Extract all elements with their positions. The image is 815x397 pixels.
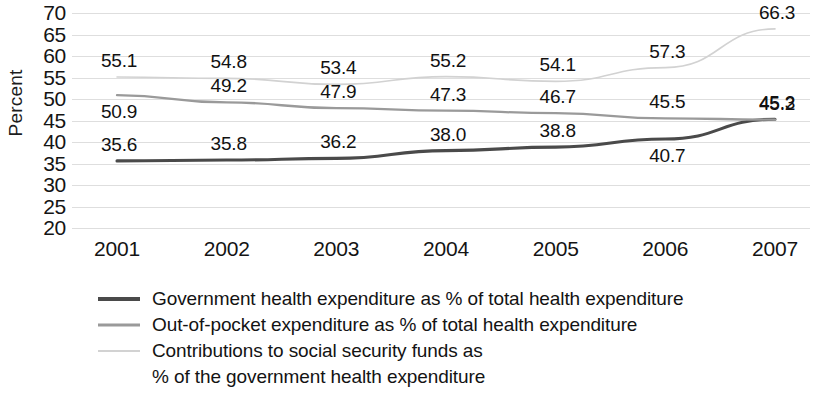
data-label-social-security-contributions-2007: 66.3 xyxy=(759,3,795,22)
data-label-government-health-expenditure-2003: 36.2 xyxy=(320,132,356,151)
x-axis-tick-label: 2002 xyxy=(204,236,250,262)
data-label-government-health-expenditure-2006: 40.7 xyxy=(649,146,685,165)
y-axis-tick-label: 70 xyxy=(8,2,66,23)
data-label-out-of-pocket-expenditure-2003: 47.9 xyxy=(320,82,356,101)
x-axis-tick-label: 2003 xyxy=(313,236,359,262)
line-chart: Percent 7065605550454035302520 35.635.83… xyxy=(0,0,815,397)
data-label-out-of-pocket-expenditure-2005: 46.7 xyxy=(540,87,576,106)
data-label-social-security-contributions-2001: 55.1 xyxy=(101,51,137,70)
data-label-out-of-pocket-expenditure-2002: 49.2 xyxy=(211,76,247,95)
y-axis-tick-labels: 7065605550454035302520 xyxy=(8,0,66,250)
data-label-social-security-contributions-2006: 57.3 xyxy=(649,42,685,61)
data-label-government-health-expenditure-2004: 38.0 xyxy=(430,125,466,144)
data-label-government-health-expenditure-2001: 35.6 xyxy=(101,135,137,154)
x-axis-tick-label: 2007 xyxy=(752,236,798,262)
legend-item: Government health expenditure as % of to… xyxy=(96,286,796,312)
legend-item-label: % of the government health expenditure xyxy=(152,366,485,388)
data-label-social-security-contributions-2005: 54.1 xyxy=(540,55,576,74)
y-axis-tick-label: 40 xyxy=(8,131,66,152)
y-axis-tick-label: 25 xyxy=(8,196,66,217)
y-axis-tick-label: 50 xyxy=(8,88,66,109)
y-axis-tick-label: 65 xyxy=(8,24,66,45)
data-label-government-health-expenditure-2005: 38.8 xyxy=(540,121,576,140)
data-label-out-of-pocket-expenditure-2007: 45.2 xyxy=(759,94,795,113)
data-label-social-security-contributions-2002: 54.8 xyxy=(211,52,247,71)
y-axis-tick-label: 60 xyxy=(8,45,66,66)
data-label-out-of-pocket-expenditure-2004: 47.3 xyxy=(430,85,466,104)
y-axis-tick-label: 55 xyxy=(8,67,66,88)
legend-item-label: Contributions to social security funds a… xyxy=(152,340,483,362)
legend-line-icon xyxy=(96,318,142,332)
legend-item-label: Out-of-pocket expenditure as % of total … xyxy=(152,314,637,336)
x-axis-tick-label: 2005 xyxy=(533,236,579,262)
data-label-out-of-pocket-expenditure-2001: 50.9 xyxy=(101,102,137,121)
y-axis-tick-label: 20 xyxy=(8,217,66,238)
x-axis-tick-labels: 2001200220032004200520062007 xyxy=(72,236,810,268)
legend-item: Contributions to social security funds a… xyxy=(96,338,796,364)
x-axis-tick-label: 2006 xyxy=(642,236,688,262)
legend-item-label: Government health expenditure as % of to… xyxy=(152,288,683,310)
data-label-social-security-contributions-2003: 53.4 xyxy=(320,58,356,77)
data-label-out-of-pocket-expenditure-2006: 45.5 xyxy=(649,92,685,111)
chart-legend: Government health expenditure as % of to… xyxy=(96,286,796,390)
plot-area: 35.635.836.238.038.840.745.350.949.247.9… xyxy=(72,0,810,232)
series-lines xyxy=(72,0,810,232)
legend-item: % of the government health expenditure xyxy=(96,364,796,390)
y-axis-tick-label: 35 xyxy=(8,153,66,174)
data-label-government-health-expenditure-2002: 35.8 xyxy=(211,134,247,153)
y-axis-tick-label: 45 xyxy=(8,110,66,131)
y-axis-tick-label: 30 xyxy=(8,174,66,195)
legend-line-icon xyxy=(96,344,142,358)
legend-line-icon xyxy=(96,292,142,306)
legend-item: Out-of-pocket expenditure as % of total … xyxy=(96,312,796,338)
x-axis-tick-label: 2004 xyxy=(423,236,469,262)
x-axis-tick-label: 2001 xyxy=(94,236,140,262)
legend-swatch-spacer xyxy=(96,370,142,384)
data-label-social-security-contributions-2004: 55.2 xyxy=(430,51,466,70)
